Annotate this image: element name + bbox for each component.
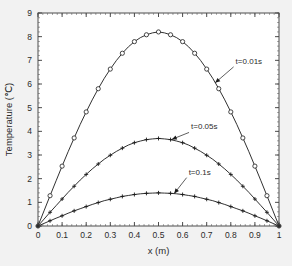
x-tick-label: 0.6 <box>177 230 189 240</box>
y-tick-label: 0 <box>27 221 32 231</box>
data-marker <box>108 67 112 71</box>
x-tick-label: 0.8 <box>225 230 237 240</box>
annotation-label: t=0.1s <box>189 168 211 177</box>
x-axis-label: x (m) <box>148 245 170 256</box>
x-tick-label: 0.4 <box>128 230 140 240</box>
x-tick-label: 0.2 <box>80 230 92 240</box>
data-marker <box>144 33 148 37</box>
data-marker <box>120 51 124 55</box>
x-tick-label: 0.1 <box>56 230 68 240</box>
annotation-label: t=0.05s <box>191 122 217 131</box>
data-marker <box>193 51 197 55</box>
figure-container: t=0.01st=0.05st=0.1s 00.10.20.30.40.50.6… <box>0 0 292 266</box>
data-marker <box>181 40 185 44</box>
y-axis-label: Temperature (℃) <box>3 83 14 156</box>
data-marker <box>205 67 209 71</box>
y-tick-label: 9 <box>27 8 32 18</box>
annotation-label: t=0.01s <box>236 57 262 66</box>
y-tick-label: 5 <box>27 103 32 113</box>
data-marker <box>60 164 64 168</box>
data-marker <box>132 40 136 44</box>
data-marker <box>229 110 233 114</box>
x-tick-label: 0.5 <box>153 230 165 240</box>
data-marker <box>72 136 76 140</box>
data-marker <box>241 136 245 140</box>
y-tick-label: 2 <box>27 174 32 184</box>
y-tick-label: 4 <box>27 126 32 136</box>
x-tick-label: 1 <box>277 230 282 240</box>
data-marker <box>217 87 221 91</box>
y-tick-label: 7 <box>27 55 32 65</box>
x-tick-label: 0.3 <box>104 230 116 240</box>
data-marker <box>253 164 257 168</box>
y-tick-label: 1 <box>27 197 32 207</box>
data-marker <box>84 110 88 114</box>
data-marker <box>168 33 172 37</box>
x-tick-label: 0.9 <box>249 230 261 240</box>
temperature-profile-chart: t=0.01st=0.05st=0.1s 00.10.20.30.40.50.6… <box>0 0 292 266</box>
data-marker <box>156 30 160 34</box>
data-marker <box>48 194 52 198</box>
x-tick-label: 0 <box>36 230 41 240</box>
x-tick-label: 0.7 <box>201 230 213 240</box>
y-tick-label: 8 <box>27 32 32 42</box>
data-marker <box>96 87 100 91</box>
y-tick-label: 6 <box>27 79 32 89</box>
data-marker <box>265 194 269 198</box>
y-tick-label: 3 <box>27 150 32 160</box>
